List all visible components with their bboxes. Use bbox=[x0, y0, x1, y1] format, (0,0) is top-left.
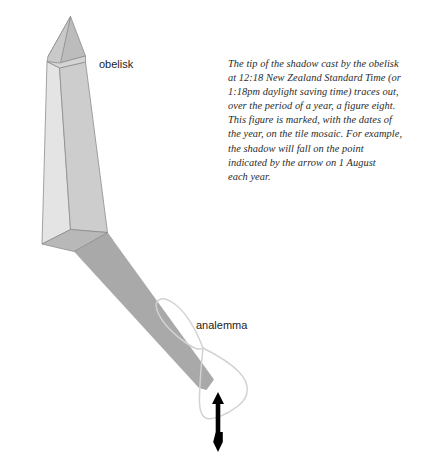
figure-root: The tip of the shadow cast by the obelis… bbox=[0, 0, 426, 467]
caption-line: the shadow will fall on the point bbox=[228, 142, 418, 156]
caption-line: 1:18pm daylight saving time) traces out, bbox=[228, 85, 418, 99]
obelisk-label: obelisk bbox=[99, 58, 133, 70]
shadow-group bbox=[71, 230, 215, 391]
caption-line: at 12:18 New Zealand Standard Time (or bbox=[228, 71, 418, 85]
analemma-label: analemma bbox=[196, 319, 247, 331]
caption-line: This figure is marked, with the dates of bbox=[228, 113, 418, 127]
caption-line: over the period of a year, a figure eigh… bbox=[228, 99, 418, 113]
caption-line: indicated by the arrow on 1 August bbox=[228, 156, 418, 170]
caption-line: the year, on the tile mosaic. For exampl… bbox=[228, 127, 418, 141]
caption-line: The tip of the shadow cast by the obelis… bbox=[228, 57, 418, 71]
caption-line: each year. bbox=[228, 170, 418, 184]
date-marker-arrow bbox=[212, 392, 224, 452]
obelisk-shadow bbox=[71, 230, 215, 391]
obelisk-group bbox=[42, 17, 108, 252]
caption-block: The tip of the shadow cast by the obelis… bbox=[228, 57, 418, 184]
analemma-group bbox=[156, 299, 247, 419]
arrow-shape bbox=[212, 392, 224, 452]
